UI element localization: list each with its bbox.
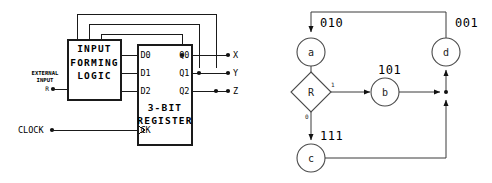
junction-dot-q2	[214, 89, 218, 93]
state-diagram-panel: a 010 R 1 b 101 0 c 111	[291, 12, 478, 172]
figure-canvas: INPUT FORMING LOGIC 3-BIT REGISTER D0 D1…	[0, 0, 492, 183]
state-node-c-label: c	[308, 153, 314, 164]
output-terminal-x	[226, 53, 230, 57]
circuit-schematic-panel: INPUT FORMING LOGIC 3-BIT REGISTER D0 D1…	[18, 14, 239, 145]
register-label-line1: 3-BIT	[148, 102, 183, 113]
state-node-a-label: a	[308, 47, 314, 58]
external-input-label-line1: EXTERNAL	[32, 70, 60, 76]
figure-svg: INPUT FORMING LOGIC 3-BIT REGISTER D0 D1…	[0, 0, 492, 183]
state-code-d: 001	[455, 16, 478, 30]
register-pin-q2: Q2	[179, 86, 189, 96]
external-input-label-line2: INPUT	[37, 77, 54, 83]
register-pin-d1: D1	[141, 68, 151, 78]
register-pin-ck: CK	[141, 125, 152, 135]
junction-dot-q0	[180, 53, 184, 57]
register-pin-q1: Q1	[179, 68, 189, 78]
clock-label: CLOCK	[18, 125, 44, 135]
output-terminal-z	[226, 89, 230, 93]
branch-label-false: 0	[305, 113, 309, 120]
state-code-b: 101	[378, 63, 401, 77]
branch-label-true: 1	[331, 81, 335, 88]
data-input-wires	[121, 55, 138, 91]
register-pin-d2: D2	[141, 86, 151, 96]
external-input-name-r: R	[45, 85, 49, 92]
decision-label-r: R	[308, 87, 315, 98]
junction-dot-q1	[197, 71, 201, 75]
clock-signal: CLOCK	[18, 125, 138, 135]
output-label-z: Z	[233, 86, 238, 96]
output-terminal-y	[226, 71, 230, 75]
register-pin-d0: D0	[141, 50, 151, 60]
state-code-a: 010	[320, 16, 343, 30]
output-label-x: X	[233, 50, 239, 60]
state-node-d-label: d	[443, 47, 449, 58]
output-label-y: Y	[233, 68, 238, 78]
ifl-label-line2: FORMING	[70, 57, 118, 68]
state-merge-junction-dot	[444, 90, 448, 94]
ifl-label-line1: INPUT	[77, 43, 112, 54]
state-node-b-label: b	[382, 87, 388, 98]
ifl-label-line3: LOGIC	[77, 70, 112, 81]
state-code-c: 111	[320, 129, 343, 143]
external-input-signal: EXTERNAL INPUT R	[32, 70, 68, 92]
